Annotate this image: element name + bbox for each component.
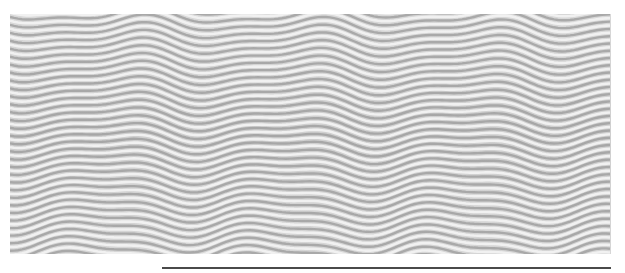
wavy-texture-photo: [10, 14, 611, 254]
horizontal-rule: [162, 267, 611, 269]
wave-pattern-graphic: [10, 14, 611, 254]
